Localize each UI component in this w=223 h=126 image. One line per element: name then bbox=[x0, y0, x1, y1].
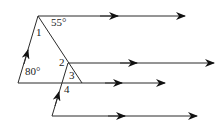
angle-2-label: 2 bbox=[59, 57, 65, 68]
left-transversal-arrow bbox=[24, 50, 28, 64]
diagram-canvas: 55° 1 80° 2 3 4 bbox=[0, 0, 223, 126]
diagram-svg bbox=[0, 0, 223, 126]
angle-4-label: 4 bbox=[64, 84, 70, 95]
angle-3-label: 3 bbox=[69, 70, 75, 81]
angle-1-label: 1 bbox=[36, 27, 42, 38]
angle-55-label: 55° bbox=[51, 17, 66, 28]
lower-transversal-arrow bbox=[55, 92, 59, 106]
angle-80-label: 80° bbox=[25, 66, 40, 77]
